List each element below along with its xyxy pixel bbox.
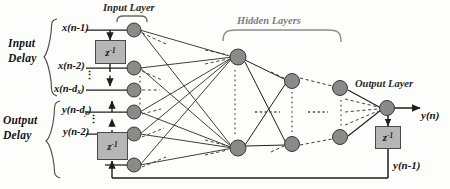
signal-y-n-2: y(n-2) bbox=[63, 126, 89, 138]
hidden-layer-3-nodes bbox=[333, 81, 348, 145]
signal-x-n-2-pre: x(n bbox=[58, 60, 73, 71]
signal-y-n-2-pre: y(n bbox=[63, 126, 77, 137]
output-delay-label-line1: Output bbox=[3, 113, 37, 128]
output-dashed-fan bbox=[345, 99, 378, 125]
input-to-hidden-dashed-connections bbox=[142, 33, 228, 167]
vertical-dots-output: ⋮ bbox=[88, 114, 99, 126]
output-delay-brace bbox=[46, 101, 60, 178]
signal-x-n-dx-pre: x(n-d bbox=[54, 83, 77, 94]
input-layer-label: Input Layer bbox=[103, 2, 155, 13]
input-to-hidden-connections bbox=[140, 30, 233, 165]
network-diagram: Input Delay Output Delay Input Layer Hid… bbox=[0, 0, 450, 189]
output-delay-block: z-1 bbox=[97, 132, 128, 160]
hidden-layers-bracket bbox=[223, 30, 341, 42]
input-delay-block: z-1 bbox=[95, 40, 126, 64]
output-node bbox=[380, 101, 395, 116]
output-delay-label: Output Delay bbox=[3, 113, 37, 142]
signal-x-n-2-post: -2) bbox=[73, 60, 85, 71]
feedback-delay-block: z-1 bbox=[375, 126, 401, 149]
signal-y-n-dy-pre: y(n-d bbox=[62, 104, 85, 115]
output-delay-label-line2: Delay bbox=[3, 128, 37, 143]
input-nodes bbox=[127, 23, 141, 172]
input-delay-label: Input Delay bbox=[8, 36, 36, 65]
signal-x-n-2: x(n-2) bbox=[58, 60, 85, 72]
vertical-dots-input: ⋮ bbox=[84, 70, 95, 82]
output-y-n: y(n) bbox=[421, 110, 439, 122]
signal-x-n-dx: x(n-dx) bbox=[54, 83, 85, 95]
signal-x-n-1-text: x(n-1) bbox=[62, 22, 89, 33]
input-delay-block-exp: -1 bbox=[110, 46, 116, 55]
hidden-layer-1-nodes bbox=[230, 49, 246, 156]
signal-y-n-2-post: -2) bbox=[77, 126, 89, 137]
signal-x-n-dx-post: ) bbox=[81, 83, 85, 94]
hidden-layers-label: Hidden Layers bbox=[237, 15, 301, 26]
output-y-n-1: y(n-1) bbox=[393, 160, 421, 172]
feedback-delay-block-exp: -1 bbox=[387, 131, 393, 140]
signal-x-n-1: x(n-1) bbox=[62, 22, 89, 33]
vertical-ellipsis-markers bbox=[140, 70, 341, 136]
input-delay-label-line2: Delay bbox=[8, 51, 36, 66]
input-layer-bracket bbox=[117, 16, 147, 22]
output-delay-block-exp: -1 bbox=[112, 140, 118, 149]
output-layer-label: Output Layer bbox=[355, 78, 413, 89]
input-delay-label-line1: Input bbox=[8, 36, 36, 51]
hidden-layer-1-to-2-connections bbox=[245, 60, 286, 146]
